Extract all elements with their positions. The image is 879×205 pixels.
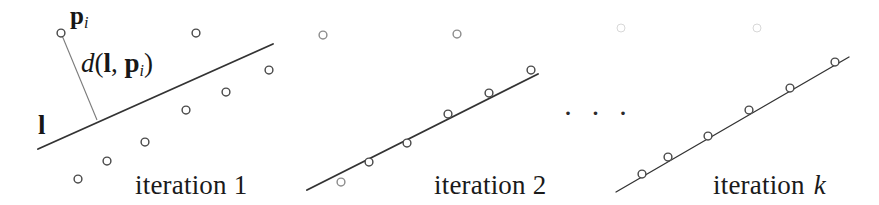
data-point bbox=[74, 175, 82, 183]
data-point bbox=[141, 138, 149, 146]
fit-line bbox=[38, 44, 273, 149]
data-point bbox=[453, 30, 461, 38]
point-label-p-i: pi bbox=[70, 2, 88, 32]
distance-comma: , bbox=[111, 48, 125, 78]
data-point bbox=[638, 170, 646, 178]
caption-iteration-2: iteration 2 bbox=[434, 170, 546, 201]
panel-iteration-2-graphics bbox=[307, 30, 538, 190]
data-point bbox=[57, 29, 65, 37]
data-point bbox=[365, 158, 373, 166]
distance-point-symbol: p bbox=[125, 48, 140, 78]
distance-function-letter: d bbox=[81, 48, 95, 78]
distance-label-d-l-p-i: d(l, pi) bbox=[81, 48, 153, 80]
caption-iteration-k-prefix: iteration bbox=[713, 170, 812, 200]
data-point bbox=[403, 139, 411, 147]
data-point bbox=[485, 89, 493, 97]
data-point bbox=[222, 88, 230, 96]
data-point bbox=[265, 66, 273, 74]
line-label-l: l bbox=[38, 110, 46, 141]
distance-paren-close: ) bbox=[144, 48, 153, 78]
data-point bbox=[745, 106, 753, 114]
ellipsis-between-panels: · · · bbox=[563, 96, 633, 130]
data-point bbox=[786, 84, 794, 92]
data-point bbox=[337, 178, 345, 186]
panel-iteration-1-graphics bbox=[38, 29, 273, 183]
data-point bbox=[664, 153, 672, 161]
data-point bbox=[182, 106, 190, 114]
data-point bbox=[192, 29, 200, 37]
distance-paren-open: ( bbox=[95, 48, 104, 78]
data-point bbox=[704, 132, 712, 140]
data-point bbox=[617, 24, 625, 32]
data-point bbox=[753, 24, 761, 32]
caption-iteration-k-index: k bbox=[812, 170, 826, 200]
caption-iteration-1: iteration 1 bbox=[135, 170, 247, 201]
caption-iteration-k: iteration k bbox=[713, 170, 826, 201]
iterative-line-fitting-figure: pi d(l, pi) l iteration 1 iteration 2 it… bbox=[0, 0, 879, 205]
distance-line-symbol: l bbox=[104, 48, 112, 78]
point-label-subscript: i bbox=[84, 14, 88, 31]
data-point bbox=[319, 31, 327, 39]
data-point bbox=[444, 110, 452, 118]
point-label-letter: p bbox=[70, 2, 84, 29]
data-point bbox=[103, 157, 111, 165]
data-point bbox=[527, 66, 535, 74]
panel-iteration-k-graphics bbox=[616, 24, 849, 192]
data-point bbox=[831, 58, 839, 66]
